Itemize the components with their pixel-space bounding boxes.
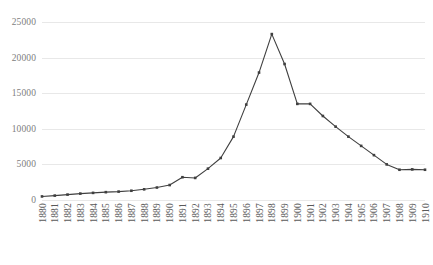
y-tick-label: 10000	[12, 124, 36, 134]
line-chart: 0500010000150002000025000 18801881188218…	[0, 0, 433, 265]
plot-area	[42, 22, 425, 200]
x-tick-label: 1890	[165, 203, 175, 223]
gridline-0	[42, 200, 425, 201]
gridline-5000	[42, 164, 425, 165]
x-tick-label: 1889	[152, 203, 162, 223]
gridline-25000	[42, 22, 425, 23]
x-tick-label: 1902	[318, 203, 328, 223]
x-tick-label: 1882	[63, 203, 73, 223]
gridline-20000	[42, 58, 425, 59]
gridline-15000	[42, 93, 425, 94]
x-tick-label: 1891	[178, 203, 188, 223]
x-tick-label: 1901	[306, 203, 316, 223]
x-tick-label: 1907	[382, 203, 392, 223]
gridline-10000	[42, 129, 425, 130]
x-tick-label: 1887	[127, 203, 137, 223]
y-tick-label: 0	[31, 195, 36, 205]
x-tick-label: 1905	[357, 203, 367, 223]
y-tick-label: 5000	[17, 159, 36, 169]
x-axis: 1880188118821883188418851886188718881889…	[42, 203, 425, 265]
x-tick-label: 1899	[280, 203, 290, 223]
x-tick-label: 1888	[140, 203, 150, 223]
x-tick-label: 1896	[242, 203, 252, 223]
x-tick-label: 1885	[101, 203, 111, 223]
x-tick-label: 1883	[76, 203, 86, 223]
x-tick-label: 1880	[38, 203, 48, 223]
x-tick-label: 1881	[50, 203, 60, 223]
y-axis: 0500010000150002000025000	[0, 0, 42, 222]
y-tick-label: 25000	[12, 17, 36, 27]
y-tick-label: 15000	[12, 88, 36, 98]
x-tick-label: 1894	[216, 203, 226, 223]
y-tick-label: 20000	[12, 53, 36, 63]
x-tick-label: 1910	[421, 203, 431, 223]
x-tick-label: 1897	[255, 203, 265, 223]
x-tick-label: 1893	[203, 203, 213, 223]
x-tick-label: 1900	[293, 203, 303, 223]
x-tick-label: 1886	[114, 203, 124, 223]
x-tick-label: 1906	[369, 203, 379, 223]
x-tick-label: 1898	[267, 203, 277, 223]
x-tick-label: 1909	[408, 203, 418, 223]
x-tick-label: 1903	[331, 203, 341, 223]
x-tick-label: 1884	[89, 203, 99, 223]
x-tick-label: 1904	[344, 203, 354, 223]
x-tick-label: 1892	[191, 203, 201, 223]
x-tick-label: 1908	[395, 203, 405, 223]
x-tick-label: 1895	[229, 203, 239, 223]
